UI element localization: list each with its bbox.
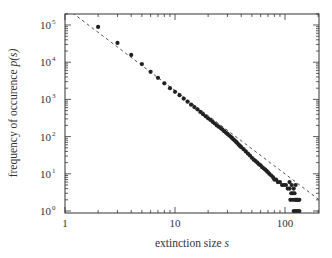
x-axis-label: extinction size s bbox=[155, 237, 230, 249]
data-point bbox=[168, 86, 172, 90]
data-point bbox=[287, 187, 291, 191]
y-tick-label: 10 bbox=[40, 56, 52, 68]
data-point bbox=[173, 90, 177, 94]
data-point bbox=[162, 81, 166, 85]
y-tick-label: 10 bbox=[40, 131, 52, 143]
y-tick-exponent: 3 bbox=[52, 92, 56, 100]
plot-area bbox=[68, 9, 318, 213]
y-tick-label: 10 bbox=[40, 19, 52, 31]
data-point bbox=[292, 191, 296, 195]
data-point bbox=[292, 187, 296, 191]
y-axis-ticks: 100101102103104105 bbox=[40, 14, 319, 217]
data-point bbox=[297, 209, 301, 213]
y-tick-exponent: 0 bbox=[52, 204, 56, 212]
y-tick-label: 10 bbox=[40, 205, 52, 217]
x-axis-ticks: 110100 bbox=[62, 14, 318, 229]
data-point bbox=[294, 183, 298, 187]
chart: 110100 100101102103104105 extinction siz… bbox=[0, 0, 332, 258]
data-point bbox=[156, 76, 160, 80]
y-tick-exponent: 1 bbox=[52, 167, 56, 175]
y-axis-label: frequency of occurence p(s) bbox=[7, 48, 20, 177]
data-point bbox=[140, 62, 144, 66]
data-point bbox=[115, 41, 119, 45]
y-tick-label: 10 bbox=[40, 168, 52, 180]
x-tick-label: 100 bbox=[277, 217, 294, 229]
data-point bbox=[177, 93, 181, 97]
x-tick-label: 10 bbox=[170, 217, 182, 229]
data-point bbox=[148, 70, 152, 74]
data-point bbox=[182, 97, 186, 101]
y-tick-exponent: 2 bbox=[52, 130, 56, 138]
data-point bbox=[295, 198, 299, 202]
x-tick-label: 1 bbox=[62, 217, 68, 229]
data-point bbox=[96, 25, 100, 29]
data-point bbox=[129, 53, 133, 57]
data-point bbox=[290, 183, 294, 187]
data-point bbox=[185, 100, 189, 104]
y-tick-exponent: 4 bbox=[52, 55, 56, 63]
y-tick-label: 10 bbox=[40, 93, 52, 105]
y-tick-exponent: 5 bbox=[52, 18, 56, 26]
data-point bbox=[284, 183, 288, 187]
